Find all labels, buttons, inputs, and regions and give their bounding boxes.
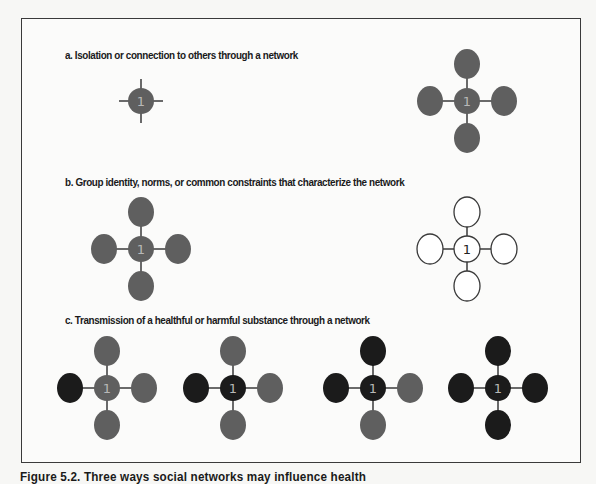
node-left-grey bbox=[417, 86, 443, 116]
node-left-black bbox=[448, 373, 474, 403]
node-top-grey bbox=[220, 336, 246, 366]
node-right-grey bbox=[131, 373, 157, 403]
node-right-grey bbox=[257, 373, 283, 403]
node-top-grey bbox=[94, 336, 120, 366]
node-top-grey bbox=[128, 197, 154, 227]
center-node-label: 1 bbox=[463, 94, 471, 109]
node-left-black bbox=[57, 373, 83, 403]
node-bottom-outline bbox=[454, 271, 480, 301]
node-left-black bbox=[323, 373, 349, 403]
center-node-label: 1 bbox=[103, 381, 111, 396]
node-bottom-black bbox=[485, 410, 511, 440]
node-right-grey bbox=[491, 86, 517, 116]
node-top-black bbox=[485, 336, 511, 366]
node-left-black bbox=[183, 373, 209, 403]
center-node-label: 1 bbox=[137, 94, 145, 109]
node-top-black bbox=[360, 336, 386, 366]
isolated-node: 1 bbox=[119, 79, 163, 123]
node-right-black bbox=[522, 373, 548, 403]
node-bottom-grey bbox=[454, 123, 480, 153]
transmission-stage-2: 1 bbox=[183, 336, 283, 440]
center-node-label: 1 bbox=[494, 381, 502, 396]
node-right-grey bbox=[165, 234, 191, 264]
center-node-label: 1 bbox=[369, 381, 377, 396]
figure-caption: Figure 5.2. Three ways social networks m… bbox=[20, 469, 366, 484]
node-right-grey bbox=[397, 373, 423, 403]
center-node-label: 1 bbox=[229, 381, 237, 396]
transmission-stage-4: 1 bbox=[448, 336, 548, 440]
node-bottom-grey bbox=[94, 410, 120, 440]
node-bottom-grey bbox=[360, 410, 386, 440]
connected-network: 1 bbox=[417, 49, 517, 153]
transmission-stage-1: 1 bbox=[57, 336, 157, 440]
center-node-label: 1 bbox=[137, 242, 145, 257]
transmission-stage-3: 1 bbox=[323, 336, 423, 440]
filled-network: 1 bbox=[91, 197, 191, 301]
node-right-outline bbox=[491, 234, 517, 264]
node-left-outline bbox=[417, 234, 443, 264]
node-top-grey bbox=[454, 49, 480, 79]
node-left-grey bbox=[91, 234, 117, 264]
node-top-outline bbox=[454, 197, 480, 227]
center-node-label: 1 bbox=[463, 242, 471, 257]
node-bottom-grey bbox=[128, 271, 154, 301]
node-bottom-grey bbox=[220, 410, 246, 440]
outlined-network: 1 bbox=[417, 197, 517, 301]
